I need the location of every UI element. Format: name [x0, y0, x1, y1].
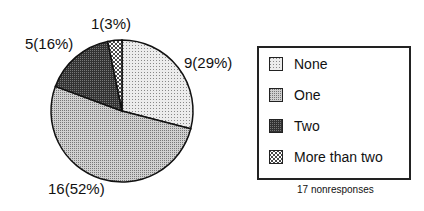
- swatch-none-icon: [269, 57, 283, 71]
- nonresponse-note: 17 nonresponses: [297, 184, 374, 195]
- slice-label-more: 1(3%): [91, 15, 131, 32]
- legend-label: More than two: [294, 149, 383, 165]
- slice-label-none: 9(29%): [184, 54, 232, 71]
- legend-label: Two: [294, 118, 320, 134]
- legend-item-none: None: [269, 56, 327, 72]
- legend-item-one: One: [269, 87, 320, 103]
- slice-label-one: 16(52%): [48, 180, 105, 197]
- slice-label-two: 5(16%): [25, 35, 73, 52]
- legend-label: None: [294, 56, 327, 72]
- swatch-two-icon: [269, 119, 283, 133]
- swatch-more-icon: [269, 150, 283, 164]
- legend-item-more: More than two: [269, 149, 383, 165]
- legend: None One Two More than two: [257, 46, 411, 180]
- legend-label: One: [294, 87, 320, 103]
- swatch-one-icon: [269, 88, 283, 102]
- legend-item-two: Two: [269, 118, 320, 134]
